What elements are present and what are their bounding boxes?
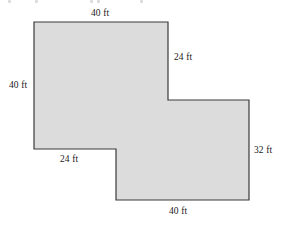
dimension-label-inner-bottom-left: 24 ft [60,155,78,165]
dimension-label-right: 32 ft [254,146,272,156]
figure-canvas: 40 ft 40 ft 24 ft 32 ft 24 ft 40 ft [0,0,287,228]
dimension-label-bottom: 40 ft [169,207,187,217]
figure-polygon [34,22,249,200]
dimension-label-left: 40 ft [9,81,27,91]
composite-figure-shape [0,0,287,228]
dimension-label-upper-right: 24 ft [174,53,192,63]
dimension-label-top: 40 ft [91,9,109,19]
